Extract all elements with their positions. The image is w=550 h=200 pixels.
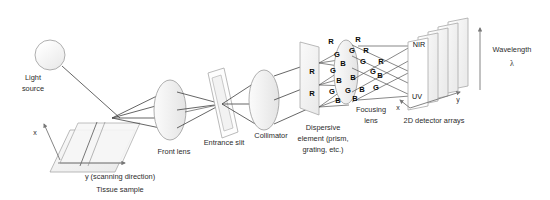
rgb-letter-g-3: G bbox=[360, 57, 366, 66]
illumination-ray bbox=[62, 66, 120, 118]
detector-y-axis-label: y bbox=[456, 96, 460, 104]
front-lens-label: Front lens bbox=[158, 147, 191, 156]
hyperspectral-imaging-diagram: Light source x y (scanning direction) Ti… bbox=[0, 0, 550, 200]
scan-direction-label: y (scanning direction) bbox=[85, 172, 155, 181]
sample-plane-top-icon bbox=[60, 123, 140, 163]
focusing-lens-label-line2: lens bbox=[364, 116, 378, 125]
rgb-letter-g-1: G bbox=[334, 50, 340, 59]
lambda-symbol-label: λ bbox=[510, 59, 514, 68]
rgb-letter-b-10: B bbox=[352, 94, 358, 103]
light-source-label-line2: source bbox=[22, 84, 44, 93]
detector-arrays-label: 2D detector arrays bbox=[404, 116, 465, 125]
rgb-letter-g-7: G bbox=[329, 87, 335, 96]
entrance-slit-label: Entrance slit bbox=[204, 138, 245, 147]
rgb-letter-b-5: B bbox=[336, 76, 342, 85]
rgb-letter-g-1: G bbox=[349, 46, 355, 55]
dispersive-element-group bbox=[300, 42, 319, 115]
lens-ellipse-icon bbox=[154, 80, 186, 140]
sample-x-axis-label: x bbox=[33, 129, 37, 136]
nir-band-label: NIR bbox=[413, 40, 425, 49]
wavelength-label: Wavelength bbox=[493, 45, 532, 54]
rgb-letter-b-8: B bbox=[335, 96, 341, 105]
arrow-up-icon bbox=[44, 124, 60, 160]
light-source-label-line1: Light bbox=[25, 73, 41, 82]
rgb-letter-g-8: G bbox=[345, 86, 351, 95]
rgb-letter-r-2: R bbox=[363, 46, 369, 55]
rgb-letter-b-9: B bbox=[359, 85, 365, 94]
rgb-letter-g-11: G bbox=[373, 83, 379, 92]
collimator-label: Collimator bbox=[254, 131, 288, 140]
dispersive-element-label-line1: Dispersive bbox=[306, 123, 341, 132]
rgb-letter-r-6: R bbox=[309, 89, 315, 98]
front-lens-group bbox=[154, 80, 186, 140]
rgb-letter-g-4: G bbox=[330, 66, 336, 75]
prism-plane-icon bbox=[300, 42, 319, 115]
focusing-lens-label-line1: Focusing bbox=[356, 105, 386, 114]
rgb-letter-r-0: R bbox=[328, 37, 334, 46]
rgb-letter-b-6: B bbox=[350, 73, 356, 82]
rgb-letter-r-4: R bbox=[378, 57, 384, 66]
detector-x-axis-label: x bbox=[396, 104, 400, 111]
rgb-letter-b-2: B bbox=[340, 59, 346, 68]
dispersive-element-label-line3: grating, etc.) bbox=[302, 145, 343, 154]
rgb-letter-g-5: G bbox=[370, 67, 376, 76]
tissue-sample-group bbox=[44, 122, 140, 172]
lamp-circle-icon bbox=[35, 40, 65, 70]
dispersive-element-label-line2: element (prism, bbox=[298, 134, 349, 143]
rgb-letter-r-0: R bbox=[355, 35, 361, 44]
diagram-canvas: Light source x y (scanning direction) Ti… bbox=[0, 0, 550, 200]
light-source-group bbox=[35, 40, 120, 118]
rgb-letter-r-3: R bbox=[309, 67, 315, 76]
rgb-letter-b-7: B bbox=[377, 71, 383, 80]
tissue-sample-label: Tissue sample bbox=[96, 185, 143, 194]
uv-band-label: UV bbox=[412, 92, 422, 101]
